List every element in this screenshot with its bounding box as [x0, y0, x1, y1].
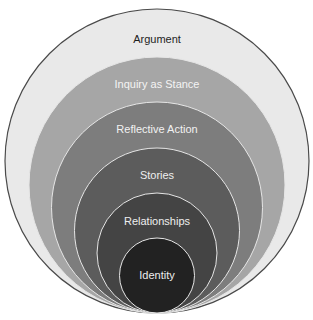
label-identity: Identity — [139, 269, 175, 281]
nested-circles-diagram: Argument Inquiry as Stance Reflective Ac… — [0, 0, 313, 320]
label-stories: Stories — [140, 169, 175, 181]
label-reflective-action: Reflective Action — [116, 123, 197, 135]
label-inquiry-as-stance: Inquiry as Stance — [115, 78, 200, 90]
label-relationships: Relationships — [124, 215, 191, 227]
rings-group — [5, 9, 309, 313]
label-argument: Argument — [133, 33, 181, 45]
